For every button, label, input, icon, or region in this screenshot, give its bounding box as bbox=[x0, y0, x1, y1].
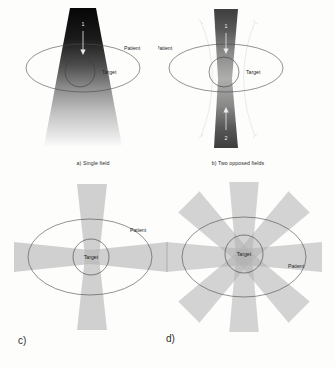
divergence-tick-b-br bbox=[253, 134, 257, 138]
target-label-d: Target bbox=[237, 251, 252, 257]
patient-label-a: Patient bbox=[124, 45, 141, 51]
panel-c-four-fields: Patient Target bbox=[12, 182, 172, 332]
beam-wedge-c-vertical-lower bbox=[77, 257, 107, 330]
beam-group-d bbox=[166, 182, 322, 332]
patient-label-d: Patient bbox=[288, 263, 305, 269]
caption-b: b) Two opposed fields bbox=[158, 160, 318, 166]
panel-letter-c: c) bbox=[18, 335, 26, 346]
radiotherapy-beam-geometry-figure: 1 Patient Target a) Single field bbox=[0, 0, 335, 367]
target-label-b: Target bbox=[246, 69, 261, 75]
divergence-guide-b-right bbox=[244, 22, 255, 136]
target-label-a: Target bbox=[102, 69, 117, 75]
divergence-tick-b-tr bbox=[253, 20, 257, 24]
divergence-tick-b-tl bbox=[199, 20, 203, 24]
panel-b-two-opposed-fields: 1 2 Patient Target bbox=[158, 6, 318, 156]
beam-wedge-c-horizontal-left bbox=[14, 242, 90, 272]
patient-label-c: Patient bbox=[130, 227, 147, 233]
patient-label-b: Patient bbox=[158, 45, 173, 51]
target-label-c: Target bbox=[84, 254, 99, 260]
panel-a-single-field: 1 Patient Target bbox=[18, 6, 168, 156]
divergence-tick-b-bl bbox=[199, 134, 203, 138]
caption-a: a) Single field bbox=[18, 160, 168, 166]
beam-wedge-c-horizontal-right bbox=[90, 242, 168, 272]
panel-d-eight-fields: Patient Target bbox=[162, 182, 332, 332]
beam-wedge-c-vertical bbox=[77, 184, 107, 257]
panel-letter-d: d) bbox=[166, 333, 175, 344]
beam-number-a1: 1 bbox=[82, 21, 85, 27]
beam-number-b1: 1 bbox=[225, 23, 228, 29]
beam-number-b2: 2 bbox=[225, 135, 228, 141]
beam-wedge-a1 bbox=[44, 8, 122, 146]
